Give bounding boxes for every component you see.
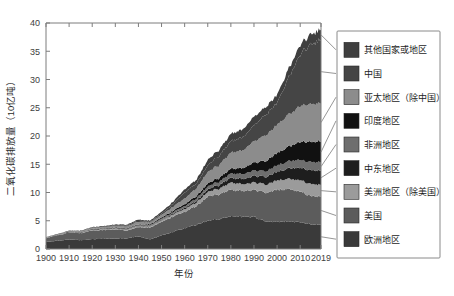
legend-leader-line — [321, 97, 336, 122]
y-tick-label: 15 — [30, 160, 40, 170]
legend-swatch[interactable] — [344, 42, 359, 57]
x-tick-label: 1930 — [105, 253, 125, 263]
y-tick-label: 25 — [30, 103, 40, 113]
y-tick-label: 30 — [30, 75, 40, 85]
co2-emissions-figure: 0510152025303540190019101920193019401950… — [0, 0, 454, 296]
legend-label[interactable]: 其他国家或地区 — [364, 44, 427, 55]
x-tick-label: 2010 — [290, 253, 310, 263]
x-tick-label: 2019 — [311, 253, 331, 263]
legend-swatch[interactable] — [344, 137, 359, 152]
legend-leader-line — [321, 210, 336, 215]
y-axis-title: 二氧化碳排放量（10亿吨） — [5, 76, 16, 197]
legend-label[interactable]: 非洲地区 — [364, 139, 400, 150]
legend-swatch[interactable] — [344, 232, 359, 247]
x-tick-label: 1980 — [221, 253, 241, 263]
legend-label[interactable]: 中东地区 — [364, 163, 400, 174]
y-tick-label: 20 — [30, 131, 40, 141]
stacked-area-chart: 0510152025303540190019101920193019401950… — [0, 0, 454, 296]
x-axis-title: 年份 — [174, 268, 194, 279]
legend-label[interactable]: 美国 — [364, 210, 382, 221]
x-tick-label: 1910 — [59, 253, 79, 263]
x-tick-label: 1940 — [128, 253, 148, 263]
legend-label[interactable]: 中国 — [364, 68, 382, 79]
legend-swatch[interactable] — [344, 161, 359, 176]
x-tick-label: 1990 — [244, 253, 264, 263]
x-tick-label: 1920 — [82, 253, 102, 263]
y-tick-label: 35 — [30, 47, 40, 57]
chart-legend: 其他国家或地区中国亚太地区（除中国）印度地区非洲地区中东地区美洲地区（除美国）美… — [337, 31, 445, 258]
legend-leader-line — [321, 35, 336, 50]
x-tick-label: 1970 — [198, 253, 218, 263]
x-tick-label: 1960 — [175, 253, 195, 263]
y-tick-label: 10 — [30, 188, 40, 198]
legend-leader-line — [321, 168, 336, 178]
legend-swatch[interactable] — [344, 113, 359, 128]
legend-leader-line — [321, 191, 336, 192]
x-tick-label: 1950 — [152, 253, 172, 263]
legend-label[interactable]: 亚太地区（除中国） — [364, 92, 445, 103]
legend-label[interactable]: 印度地区 — [364, 115, 400, 126]
x-tick-label: 1900 — [36, 253, 56, 263]
legend-label[interactable]: 欧洲地区 — [364, 234, 400, 245]
legend-swatch[interactable] — [344, 184, 359, 199]
area-bands — [46, 28, 321, 249]
legend-swatch[interactable] — [344, 208, 359, 223]
legend-swatch[interactable] — [344, 66, 359, 81]
y-tick-label: 5 — [35, 216, 40, 226]
legend-label[interactable]: 美洲地区（除美国） — [364, 186, 445, 197]
y-tick-label: 40 — [30, 18, 40, 28]
x-tick-label: 2000 — [267, 253, 287, 263]
legend-leader-lines — [321, 35, 336, 239]
legend-leader-line — [321, 72, 336, 74]
legend-leader-line — [321, 237, 336, 239]
legend-swatch[interactable] — [344, 90, 359, 105]
